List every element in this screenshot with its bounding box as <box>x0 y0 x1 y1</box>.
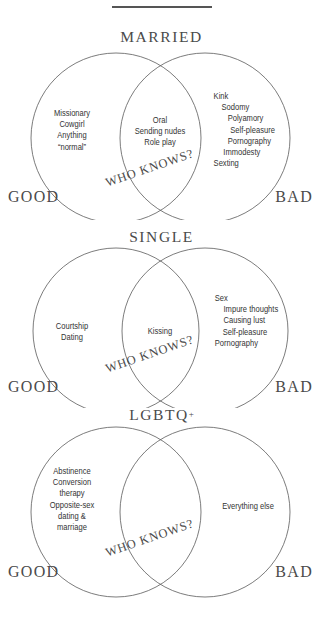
list-item: Sodomy <box>222 102 311 113</box>
list-item: Missionary <box>33 108 110 119</box>
list-item: Self-pleasure <box>230 125 310 136</box>
venn-list-bad-married: Kink Sodomy Polyamory Self-pleasure Porn… <box>214 91 311 169</box>
venn-list-bad-lgbtq: Everything else <box>204 501 292 512</box>
list-item: Sexting <box>214 158 311 169</box>
venn-label-bad-single: BAD <box>275 378 313 396</box>
list-item: dating & <box>32 511 113 522</box>
list-item: marriage <box>32 522 113 533</box>
list-item: Anything <box>33 130 110 141</box>
list-item: Pornography <box>215 338 314 349</box>
venn-diagram-married: MARRIED Missionary Cowgirl Anything “nor… <box>0 28 323 220</box>
list-item: Immodesty <box>223 147 310 158</box>
list-item: Polyamory <box>228 113 311 124</box>
list-item: Courtship <box>33 321 110 332</box>
list-item: Opposite-sex <box>32 500 113 511</box>
venn-label-good-single: GOOD <box>8 378 59 396</box>
list-item: Abstinence <box>32 466 113 477</box>
venn-label-bad-married: BAD <box>275 188 313 206</box>
venn-list-bad-single: Sex Impure thoughts Causing lust Self-pl… <box>215 293 314 349</box>
list-item: therapy <box>32 488 113 499</box>
list-item: Kink <box>214 91 311 102</box>
venn-diagram-single: SINGLE Courtship Dating Kissing Sex Impu… <box>0 228 323 408</box>
list-item: Sending nudes <box>123 126 197 137</box>
list-item: Dating <box>33 332 110 343</box>
top-divider-rule <box>112 6 212 8</box>
venn-list-good-married: Missionary Cowgirl Anything “normal” <box>33 108 110 153</box>
list-item: Self-pleasure <box>223 327 314 338</box>
list-item: Sex <box>215 293 314 304</box>
list-item: Everything else <box>204 501 292 512</box>
list-item: Impure thoughts <box>224 304 314 315</box>
list-item: Cowgirl <box>33 119 110 130</box>
venn-label-bad-lgbtq: BAD <box>275 563 313 581</box>
list-item: Oral <box>123 115 197 126</box>
venn-list-good-lgbtq: Abstinence Conversion therapy Opposite-s… <box>32 466 113 533</box>
venn-label-good-married: GOOD <box>8 188 59 206</box>
infographic-page: MARRIED Missionary Cowgirl Anything “nor… <box>0 0 323 619</box>
list-item: Conversion <box>32 477 113 488</box>
venn-list-overlap-married: Oral Sending nudes Role play <box>123 115 197 149</box>
list-item: “normal” <box>33 142 110 153</box>
venn-list-good-single: Courtship Dating <box>33 321 110 343</box>
venn-diagram-lgbtq: LGBTQ+ Abstinence Conversion therapy Opp… <box>0 406 323 606</box>
list-item: Pornography <box>228 136 311 147</box>
list-item: Causing lust <box>224 315 314 326</box>
venn-label-good-lgbtq: GOOD <box>8 563 59 581</box>
